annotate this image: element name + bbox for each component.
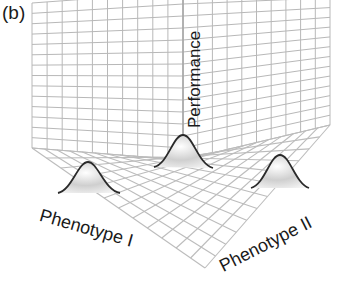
center-peak (154, 135, 213, 168)
left-wall-grid (32, 0, 183, 160)
panel-label: (b) (2, 2, 25, 24)
right-wall-grid (183, 0, 330, 160)
performance-axis-label: Performance (185, 31, 205, 128)
left-peak (58, 162, 120, 193)
